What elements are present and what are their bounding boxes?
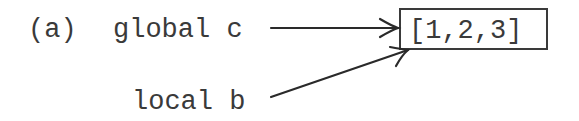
figure-label: (a) bbox=[28, 15, 77, 45]
arrow-global-c bbox=[271, 19, 398, 37]
arrow-line bbox=[271, 50, 408, 97]
value-box: [1,2,3] bbox=[400, 9, 547, 49]
global-variable-label: global c bbox=[113, 15, 243, 45]
arrow-local-b bbox=[271, 47, 408, 97]
value-box-text: [1,2,3] bbox=[409, 16, 522, 46]
local-variable-label: local b bbox=[132, 87, 245, 117]
reference-diagram: (a) global c local b [1,2,3] bbox=[0, 0, 579, 121]
